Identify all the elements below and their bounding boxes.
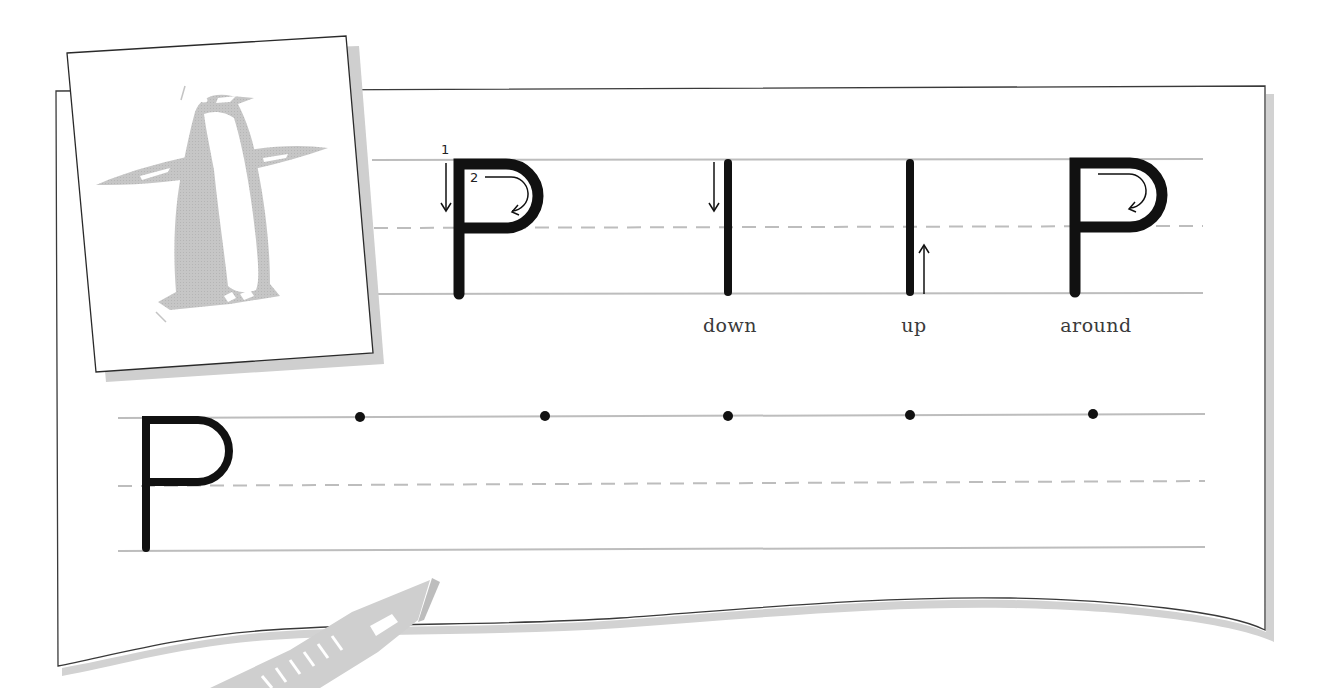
label-around: around <box>1060 314 1132 336</box>
handwriting-worksheet: 1 2 down up around <box>0 0 1325 688</box>
stroke-number-1: 1 <box>441 142 449 157</box>
worksheet-canvas <box>0 0 1325 688</box>
start-dot <box>1088 409 1098 419</box>
start-dot <box>355 412 365 422</box>
start-dot <box>723 411 733 421</box>
label-up: up <box>901 314 926 336</box>
stroke-number-2: 2 <box>470 170 478 185</box>
label-down: down <box>703 314 757 336</box>
start-dot <box>540 411 550 421</box>
penguin-photo-card <box>67 36 384 382</box>
start-dot <box>905 410 915 420</box>
